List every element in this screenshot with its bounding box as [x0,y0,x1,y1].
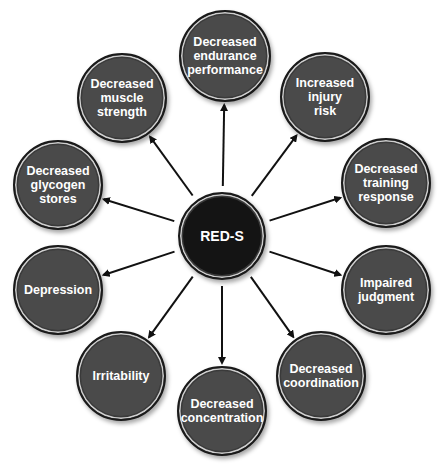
arrow [223,105,224,186]
center-label: RED-S [194,229,250,243]
outcome-label: Irritability [87,369,156,383]
red-s-diagram: RED-S Decreased endurance performance In… [0,0,444,466]
outcome-node-increased-injury-risk: Increased injury risk [280,52,370,142]
outcome-node-decreased-training-response: Decreased training response [341,138,431,228]
arrow [251,277,293,337]
outcome-node-decreased-coordination: Decreased coordination [276,331,366,421]
outcome-node-impaired-judgment: Impaired judgment [341,245,431,335]
outcome-label: Decreased endurance performance [181,35,269,77]
arrow [252,136,297,196]
outcome-label: Decreased glycogen stores [20,164,95,206]
outcome-label: Decreased concentration [175,397,270,425]
arrow [150,137,192,196]
outcome-node-irritability: Irritability [76,331,166,421]
outcome-label: Depression [18,283,98,297]
arrow [149,277,193,338]
outcome-label: Decreased coordination [277,362,365,390]
outcome-label: Impaired judgment [352,276,420,304]
outcome-node-decreased-muscle-strength: Decreased muscle strength [77,53,167,143]
outcome-node-decreased-endurance-performance: Decreased endurance performance [179,10,271,102]
center-node-red-s: RED-S [178,192,266,280]
arrow [269,252,340,275]
arrow [104,199,174,221]
arrow [104,252,175,275]
outcome-label: Increased injury risk [290,76,360,118]
arrow [270,198,341,221]
outcome-node-depression: Depression [13,245,103,335]
outcome-label: Decreased muscle strength [84,77,159,119]
outcome-label: Decreased training response [348,162,423,204]
outcome-node-decreased-concentration: Decreased concentration [177,366,267,456]
outcome-node-decreased-glycogen-stores: Decreased glycogen stores [13,140,103,230]
